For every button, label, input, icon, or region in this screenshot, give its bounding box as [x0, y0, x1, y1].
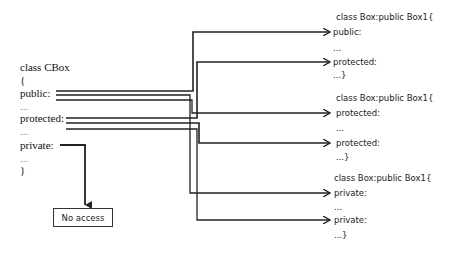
derived-3-line: ...	[334, 202, 342, 212]
base-ellipsis: ...	[20, 152, 28, 164]
base-class-title: class CBox	[20, 61, 70, 73]
base-public-label: public:	[20, 87, 51, 99]
base-close-brace: }	[20, 164, 25, 176]
derived-2-header: class Box:public Box1{	[336, 93, 433, 103]
base-ellipsis: ...	[20, 125, 28, 137]
derived-1-line: protected:	[333, 57, 377, 67]
base-open-brace: {	[20, 74, 25, 86]
inheritance-diagram: class CBox { public: ... protected: ... …	[0, 0, 450, 257]
base-ellipsis: ...	[20, 100, 28, 112]
derived-1-line: public:	[333, 27, 361, 37]
no-access-label: No access	[62, 213, 105, 223]
derived-2-line: ...}	[336, 152, 350, 162]
base-protected-label: protected:	[20, 112, 64, 124]
derived-3-line: private:	[334, 215, 367, 225]
derived-3-header: class Box:public Box1{	[334, 173, 431, 183]
base-private-label: private:	[20, 139, 54, 151]
derived-2-line: protected:	[336, 108, 380, 118]
derived-3-line: ...}	[334, 230, 348, 240]
derived-1-header: class Box:public Box1{	[336, 12, 433, 22]
derived-3-line: private:	[334, 188, 367, 198]
derived-1-line: ...	[333, 43, 341, 53]
derived-2-line: ...	[336, 123, 344, 133]
no-access-box: No access	[53, 208, 113, 227]
derived-2-line: protected:	[336, 138, 380, 148]
derived-1-line: ...}	[333, 70, 347, 80]
